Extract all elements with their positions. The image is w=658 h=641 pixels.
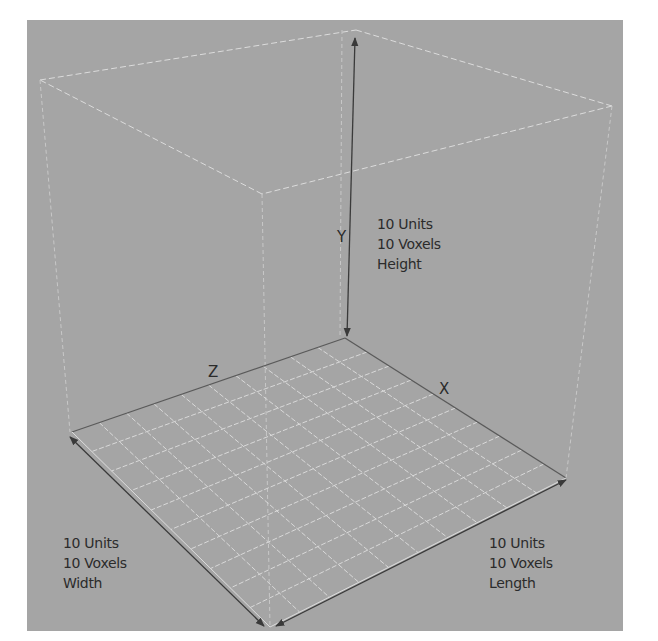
width-arrow [70, 437, 264, 626]
height-dimension-label: 10 Units 10 Voxels Height [377, 214, 441, 274]
grid-line [154, 404, 359, 583]
height-units: 10 Units [377, 214, 441, 234]
grid-line [181, 394, 388, 567]
length-dimension-label: 10 Units 10 Voxels Length [489, 533, 553, 593]
width-name: Width [63, 573, 127, 593]
grid-line [191, 422, 478, 549]
grid-line [171, 408, 456, 530]
grid-line [230, 450, 521, 588]
grid-line [92, 352, 367, 452]
height-voxels: 10 Voxels [377, 234, 441, 254]
length-voxels: 10 Voxels [489, 553, 553, 573]
length-name: Length [489, 573, 553, 593]
length-units: 10 Units [489, 533, 553, 553]
height-arrow [347, 38, 355, 336]
width-units: 10 Units [63, 533, 127, 553]
width-voxels: 10 Voxels [63, 553, 127, 573]
width-dimension-label: 10 Units 10 Voxels Width [63, 533, 127, 593]
floor-front-edges [72, 432, 566, 627]
height-name: Height [377, 254, 441, 274]
floor-back-edges [72, 338, 566, 478]
z-axis-label: Z [208, 364, 218, 380]
grid-line [211, 436, 500, 569]
y-axis-label: Y [337, 229, 346, 245]
bounding-box-top-face [40, 30, 612, 194]
floor-grid [92, 347, 544, 612]
grid-line [127, 413, 330, 597]
grid-line [99, 423, 299, 612]
x-axis-label: X [439, 381, 449, 397]
grid-line [290, 357, 506, 508]
